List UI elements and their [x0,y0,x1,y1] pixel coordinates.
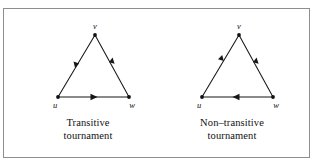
edge-u-w [58,94,129,101]
vertex-label-v: v [93,21,97,31]
figure-frame: v u w Transitive tournament [3,8,310,158]
edge-u-v [202,35,239,97]
figure-root: v u w Transitive tournament [0,0,319,165]
caption-nontransitive: Non–transitive tournament [162,117,302,142]
nontransitive-tournament-graph: v u w [162,23,302,115]
vertex-dot-v [93,33,97,37]
vertex-label-w: w [273,100,279,110]
panel-nontransitive-tournament: v u w Non–transitive tournament [162,9,302,157]
arrowhead-u-w [91,94,98,101]
arrowhead-u-v [218,55,224,61]
vertex-label-v: v [237,21,241,31]
edge-w-u [202,94,273,101]
edge-v-w [95,35,129,97]
vertex-dot-w [271,95,275,99]
arrowhead-w-u [233,94,240,101]
vertex-label-u: u [197,100,201,110]
vertex-dot-u [56,95,60,99]
vertex-dot-u [200,95,204,99]
panel-transitive-tournament: v u w Transitive tournament [18,9,158,157]
caption-transitive-line1: Transitive [18,117,158,130]
caption-nontransitive-line1: Non–transitive [162,117,302,130]
vertex-label-w: w [129,100,135,110]
edge-v-u [58,35,95,97]
caption-transitive: Transitive tournament [18,117,158,142]
transitive-tournament-graph: v u w [18,23,158,115]
caption-nontransitive-line2: tournament [162,130,302,143]
vertex-dot-w [127,95,131,99]
edge-v-w [239,35,273,97]
caption-transitive-line2: tournament [18,130,158,143]
vertex-dot-v [237,33,241,37]
vertex-label-u: u [53,100,57,110]
